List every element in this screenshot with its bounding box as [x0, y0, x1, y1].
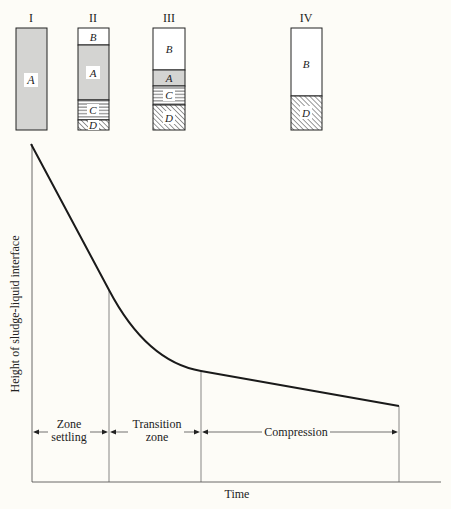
arrow-right-icon: [102, 430, 108, 435]
settling-diagram: I A II B A C D III B A C D IV B: [0, 0, 451, 509]
layer-label: A: [89, 67, 97, 79]
y-axis-label: Height of sludge-liquid interface: [8, 236, 22, 393]
layer-label: C: [89, 104, 97, 116]
layer-label: B: [166, 43, 173, 55]
region-compression: Compression: [202, 425, 398, 439]
arrow-right-icon: [194, 430, 200, 435]
x-axis-label: Time: [225, 487, 250, 501]
region-label-line1: Compression: [264, 425, 327, 439]
column-II: II B A C D: [78, 11, 109, 131]
region-transition-zone: Transition zone: [110, 417, 200, 444]
region-label-line1: Zone: [57, 417, 82, 431]
layer-label: D: [88, 119, 97, 131]
settling-curve: [31, 144, 399, 406]
arrow-left-icon: [202, 430, 208, 435]
column-label: II: [89, 11, 97, 25]
layer-label: C: [165, 89, 173, 101]
layer-label: D: [164, 112, 173, 124]
column-III: III B A C D: [153, 11, 185, 130]
layer-label: D: [301, 107, 310, 119]
region-label-line2: zone: [146, 430, 169, 444]
region-label-line1: Transition: [133, 417, 182, 431]
layer-label: A: [165, 72, 173, 84]
arrow-left-icon: [33, 430, 39, 435]
graph: Height of sludge-liquid interface Time Z…: [8, 144, 441, 501]
region-label-line2: settling: [51, 430, 86, 444]
layer-label: B: [90, 31, 97, 43]
column-label: III: [163, 11, 175, 25]
layer-label: B: [303, 58, 310, 70]
arrow-left-icon: [110, 430, 116, 435]
column-label: I: [29, 11, 33, 25]
column-IV: IV B D: [291, 11, 322, 130]
column-label: IV: [300, 11, 313, 25]
column-I: I A: [16, 11, 47, 130]
region-zone-settling: Zone settling: [33, 417, 108, 444]
layer-label: A: [26, 73, 35, 87]
arrow-right-icon: [392, 430, 398, 435]
